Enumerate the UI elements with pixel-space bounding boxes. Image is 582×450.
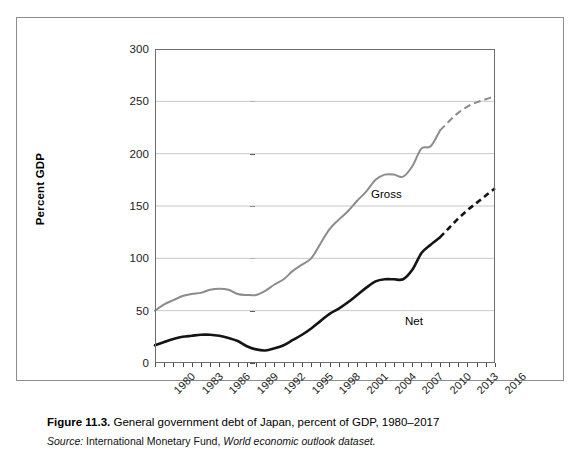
x-tick-mark: [495, 363, 496, 367]
x-tick-mark: [376, 363, 377, 367]
x-tick-mark: [192, 363, 193, 367]
x-tick-label: 1983: [199, 370, 225, 396]
x-tick-label: 1995: [309, 370, 335, 396]
figure-source-line: Source: International Monetary Fund, Wor…: [47, 434, 567, 449]
x-tick-label: 1989: [254, 370, 280, 396]
x-tick-mark: [467, 363, 468, 367]
x-tick-mark: [155, 363, 156, 367]
x-tick-mark: [256, 363, 257, 367]
x-tick-mark: [385, 363, 386, 367]
x-tick-mark: [458, 363, 459, 367]
x-tick-label: 1980: [171, 370, 197, 396]
x-tick-mark: [238, 363, 239, 367]
y-tick-label: 50: [136, 305, 149, 317]
chart-plot-area: Gross Net: [155, 49, 495, 363]
x-tick-mark: [164, 363, 165, 367]
y-tick-label: 150: [130, 200, 150, 212]
x-tick-mark: [412, 363, 413, 367]
y-tick-mark: [250, 363, 255, 364]
x-tick-label: 1998: [337, 370, 363, 396]
x-tick-mark: [366, 363, 367, 367]
figure-caption-text: General government debt of Japan, percen…: [113, 416, 439, 428]
x-tick-label: 2007: [419, 370, 445, 396]
x-tick-label: 2001: [364, 370, 390, 396]
x-tick-mark: [219, 363, 220, 367]
y-tick-label: 200: [130, 148, 150, 160]
figure-number: Figure 11.3.: [47, 416, 110, 428]
x-tick-mark: [330, 363, 331, 367]
x-tick-mark: [173, 363, 174, 367]
x-tick-mark: [357, 363, 358, 367]
x-tick-label: 2013: [475, 370, 501, 396]
x-tick-mark: [293, 363, 294, 367]
x-tick-label: 1992: [282, 370, 308, 396]
x-tick-label: 1986: [226, 370, 252, 396]
x-tick-mark: [247, 363, 248, 367]
source-organization: International Monetary Fund,: [86, 435, 220, 447]
x-tick-mark: [311, 363, 312, 367]
y-tick-label: 0: [143, 357, 150, 369]
figure-caption-title: Figure 11.3. General government debt of …: [47, 414, 567, 431]
x-tick-mark: [440, 363, 441, 367]
figure-frame: Percent GDP 300250200150100500 Gross Net…: [16, 17, 564, 381]
x-tick-mark: [339, 363, 340, 367]
x-tick-mark: [320, 363, 321, 367]
x-tick-mark: [274, 363, 275, 367]
x-tick-mark: [477, 363, 478, 367]
x-tick-mark: [348, 363, 349, 367]
x-tick-label: 2010: [447, 370, 473, 396]
scan-artifact: [6, 2, 9, 8]
x-tick-mark: [421, 363, 422, 367]
x-tick-mark: [210, 363, 211, 367]
x-tick-mark: [431, 363, 432, 367]
x-tick-mark: [403, 363, 404, 367]
x-tick-mark: [229, 363, 230, 367]
y-axis-title: Percent GDP: [34, 134, 46, 244]
y-axis-tick-labels: 300250200150100500: [117, 49, 149, 363]
x-tick-mark: [302, 363, 303, 367]
x-tick-mark: [183, 363, 184, 367]
source-dataset: World economic outlook dataset.: [223, 435, 375, 447]
series-label-gross: Gross: [371, 188, 402, 200]
x-tick-mark: [449, 363, 450, 367]
x-axis-tick-labels: 1980198319861989199219951998200120042007…: [155, 367, 495, 411]
source-label: Source:: [47, 435, 83, 447]
x-tick-mark: [394, 363, 395, 367]
x-tick-mark: [284, 363, 285, 367]
y-tick-label: 100: [130, 252, 150, 264]
series-label-net: Net: [405, 315, 423, 327]
y-tick-label: 300: [130, 43, 150, 55]
x-tick-mark: [486, 363, 487, 367]
figure-caption-block: Figure 11.3. General government debt of …: [47, 414, 567, 449]
x-tick-mark: [265, 363, 266, 367]
y-tick-label: 250: [130, 95, 150, 107]
x-tick-label: 2016: [502, 370, 528, 396]
x-tick-label: 2004: [392, 370, 418, 396]
x-tick-mark: [201, 363, 202, 367]
plot-frame: [155, 49, 495, 363]
